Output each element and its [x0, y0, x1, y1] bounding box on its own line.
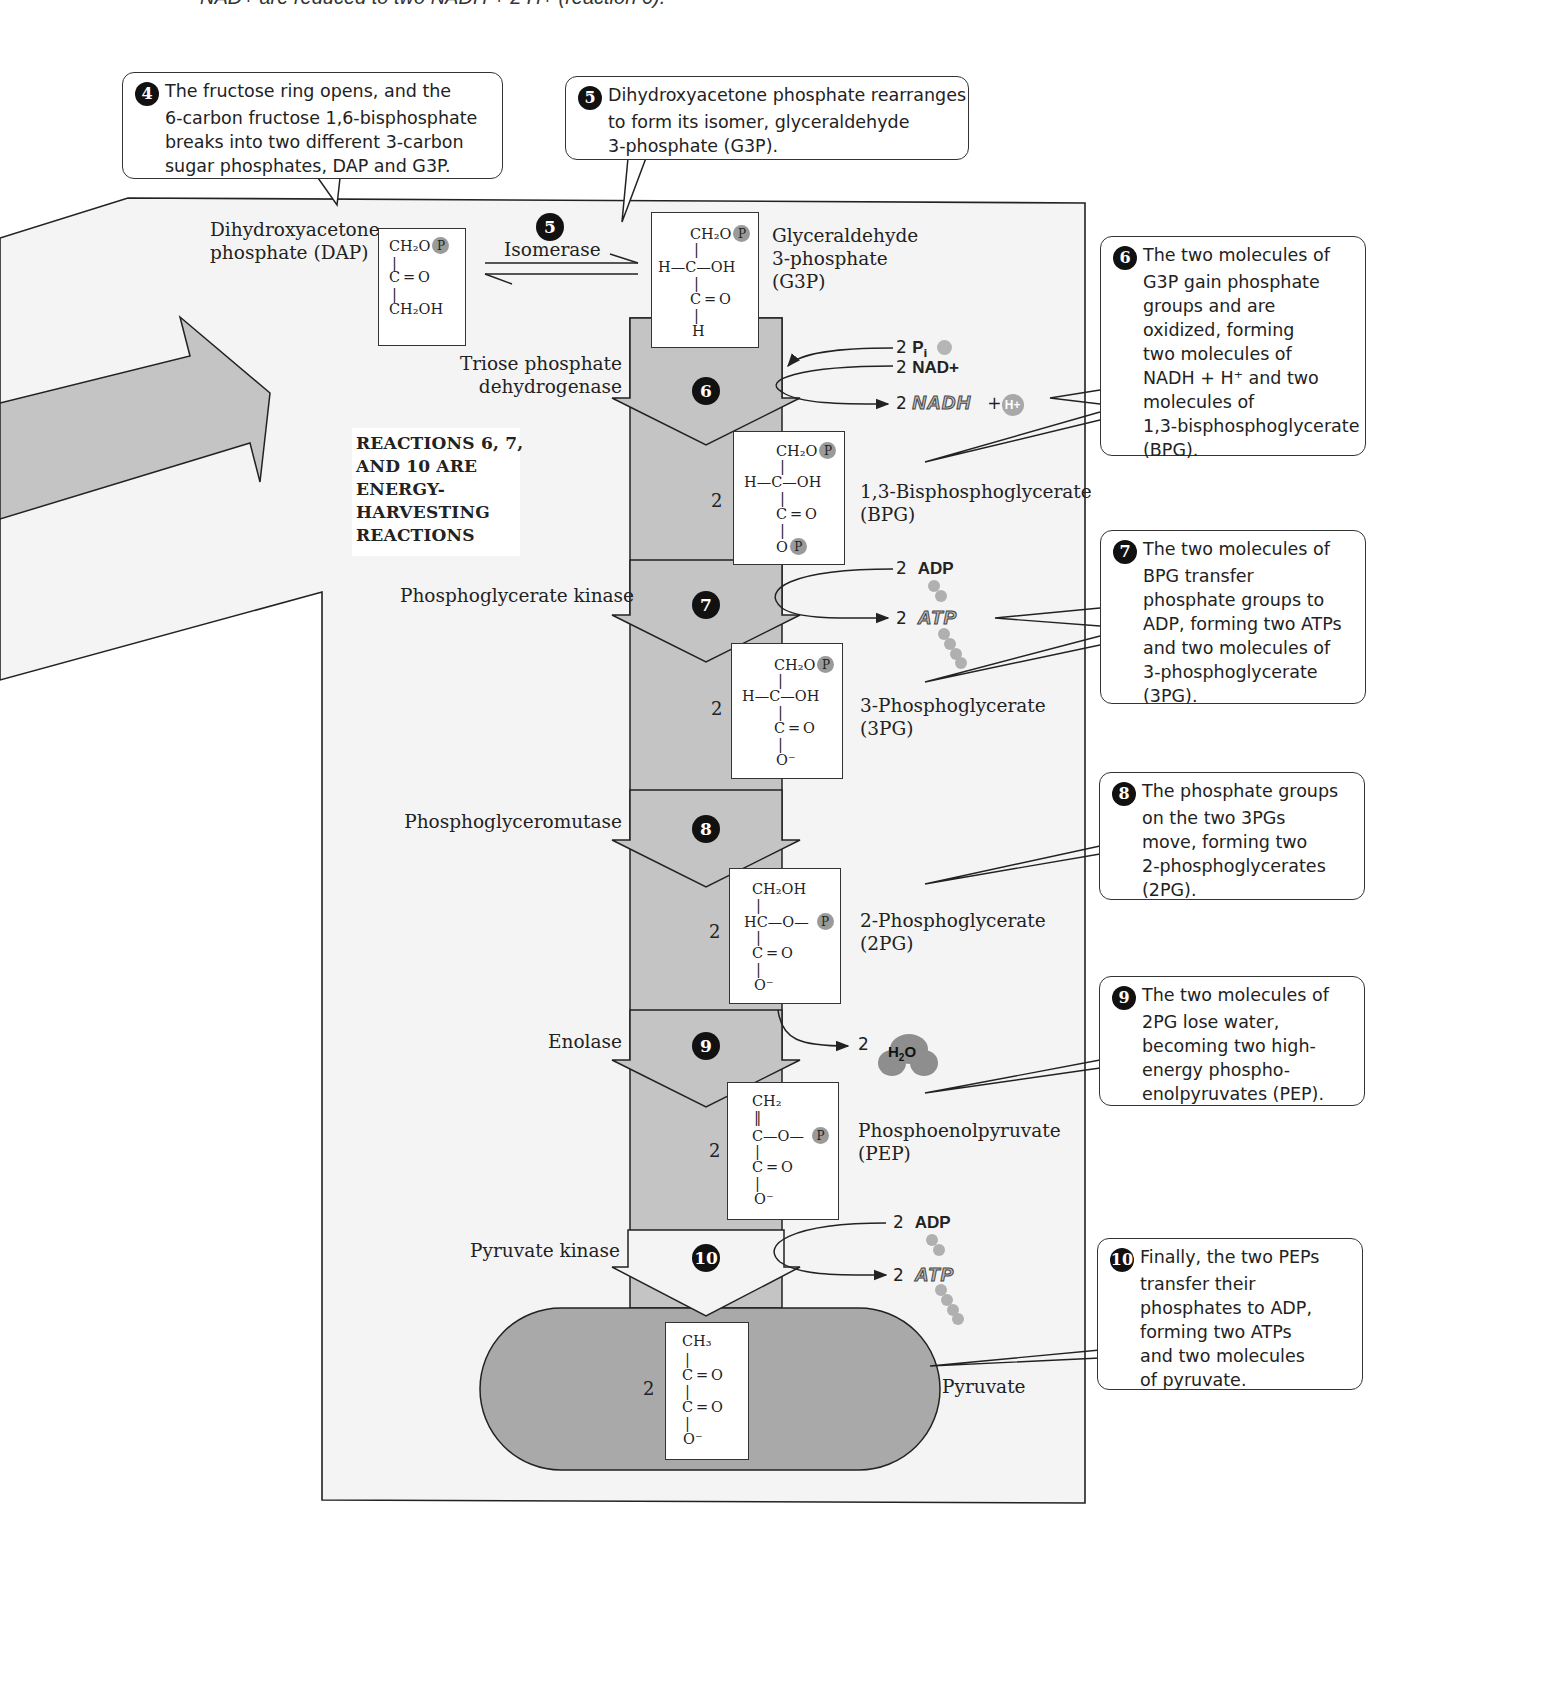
callout-step-10: 10Finally, the two PEPs transfer their p…: [1097, 1238, 1363, 1390]
callout-step-6: 6The two molecules of G3P gain phosphate…: [1100, 236, 1366, 456]
g3p-label: Glyceraldehyde 3-phosphate (G3P): [772, 224, 918, 293]
phosphate-icon: P: [817, 913, 834, 930]
phosphate-icon: P: [819, 442, 836, 459]
callout-step-8: 8The phosphate groups on the two 3PGs mo…: [1099, 772, 1365, 900]
step-5-badge: 5: [578, 86, 602, 110]
pep-structure: CH₂ ‖ C—O—P | C = O | O⁻: [727, 1082, 839, 1220]
enzyme-phosphoglyceromutase: Phosphoglyceromutase: [400, 810, 622, 833]
pg3-coefficient: 2: [711, 698, 722, 719]
bpg-coefficient: 2: [711, 490, 722, 511]
phosphate-icon: P: [733, 225, 750, 242]
cofactor-water-coefficient: 2: [858, 1034, 869, 1054]
cofactor-nadh: 2 NADH +H+: [896, 392, 1024, 416]
dap-structure: CH₂OP | C = O | CH₂OH: [378, 228, 466, 346]
bpg-label: 1,3-Bisphosphoglycerate (BPG): [860, 480, 1092, 526]
proton-icon: H+: [1002, 394, 1024, 416]
pep-coefficient: 2: [709, 1140, 720, 1161]
enzyme-triose-phosphate-dehydrogenase: Triose phosphate dehydrogenase: [440, 352, 622, 398]
step-8-marker: 8: [692, 815, 720, 843]
pg3-structure: CH₂OP | H—C—OH | C = O | O⁻: [731, 643, 843, 779]
pg2-coefficient: 2: [709, 921, 720, 942]
pyruvate-structure: CH₃ | C = O | C = O | O⁻: [665, 1322, 749, 1460]
pyruvate-label: Pyruvate: [942, 1375, 1026, 1398]
step-5-marker: 5: [536, 213, 564, 241]
step-6-badge: 6: [1113, 246, 1137, 270]
g3p-structure: CH₂OP | H—C—OH | C = O | H: [651, 212, 759, 348]
bpg-structure: CH₂OP | H—C—OH | C = O | OP: [733, 431, 845, 565]
phosphate-icon: P: [817, 656, 834, 673]
step-10-marker: 10: [692, 1244, 720, 1272]
step-7-badge: 7: [1113, 540, 1137, 564]
phosphate-icon: P: [790, 538, 807, 555]
water-molecule-icon: H2O: [876, 1034, 942, 1076]
callout-step-4: 4The fructose ring opens, and the 6-carb…: [122, 72, 503, 179]
step-10-badge: 10: [1110, 1248, 1134, 1272]
pg2-label: 2-Phosphoglycerate (2PG): [860, 909, 1046, 955]
cofactor-nad: 2 NAD+: [896, 357, 959, 378]
step-9-badge: 9: [1112, 986, 1136, 1010]
enzyme-enolase: Enolase: [500, 1030, 622, 1053]
cofactor-atp-10: 2 ATP: [893, 1264, 954, 1286]
callout-step-9: 9The two molecules of 2PG lose water, be…: [1099, 976, 1365, 1106]
phosphate-icon: P: [432, 237, 449, 254]
energy-harvesting-note: REACTIONS 6, 7, AND 10 ARE ENERGY- HARVE…: [352, 428, 520, 556]
step-7-marker: 7: [692, 591, 720, 619]
pg3-label: 3-Phosphoglycerate (3PG): [860, 694, 1046, 740]
cofactor-adp-10: 2 ADP: [893, 1212, 951, 1233]
pyruvate-coefficient: 2: [643, 1378, 654, 1399]
phosphate-dot-icon: [937, 340, 952, 355]
pep-label: Phosphoenolpyruvate (PEP): [858, 1119, 1061, 1165]
step-8-badge: 8: [1112, 782, 1136, 806]
enzyme-phosphoglycerate-kinase: Phosphoglycerate kinase: [400, 584, 624, 607]
enzyme-pyruvate-kinase: Pyruvate kinase: [440, 1239, 620, 1262]
step-4-badge: 4: [135, 82, 159, 106]
step-6-marker: 6: [692, 377, 720, 405]
cofactor-adp-7: 2 ADP: [896, 558, 954, 579]
cofactor-atp-7: 2 ATP: [896, 607, 957, 629]
step-9-marker: 9: [692, 1032, 720, 1060]
enzyme-isomerase: Isomerase: [504, 238, 601, 261]
callout-step-5: 5Dihydroxyacetone phosphate rearranges t…: [565, 76, 969, 160]
pg2-structure: CH₂OH | HC—O—P | C = O | O⁻: [729, 868, 841, 1004]
phosphate-icon: P: [812, 1127, 829, 1144]
dap-label: Dihydroxyacetone phosphate (DAP): [210, 218, 380, 264]
callout-step-7: 7The two molecules of BPG transfer phosp…: [1100, 530, 1366, 704]
